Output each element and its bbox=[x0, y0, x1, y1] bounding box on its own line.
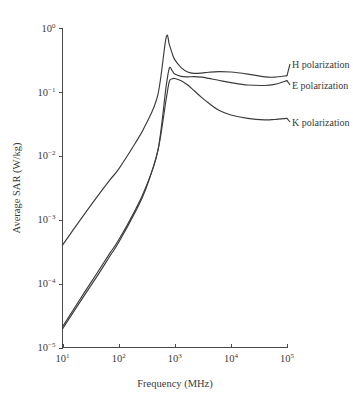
x-axis-tick-labels: 101102103104105 bbox=[56, 352, 295, 364]
y-axis-title: Average SAR (W/kg) bbox=[11, 142, 23, 233]
y-axis-tick-marks bbox=[59, 29, 63, 349]
x-axis-title: Frequency (MHz) bbox=[137, 378, 213, 390]
sar-vs-frequency-chart: 10010−110−210−310−410−5 101102103104105 … bbox=[0, 0, 353, 405]
x-tick-label: 104 bbox=[224, 352, 239, 364]
series-label-k: K polarization bbox=[292, 117, 349, 128]
x-tick-label: 101 bbox=[56, 352, 71, 364]
x-axis-tick-marks bbox=[64, 344, 288, 348]
y-axis-tick-labels: 10010−110−210−310−410−5 bbox=[38, 22, 56, 354]
y-tick-label: 10−1 bbox=[38, 86, 56, 98]
curve-h-polarization bbox=[63, 35, 288, 245]
x-tick-label: 102 bbox=[112, 352, 127, 364]
y-tick-label: 10−2 bbox=[38, 149, 56, 161]
x-tick-label: 103 bbox=[168, 352, 183, 364]
series-label-h: H polarization bbox=[292, 59, 349, 70]
data-curves bbox=[63, 35, 288, 329]
leader-line bbox=[287, 118, 290, 122]
y-tick-label: 10−4 bbox=[38, 277, 56, 289]
curve-k-polarization bbox=[63, 78, 288, 329]
x-tick-label: 105 bbox=[280, 352, 295, 364]
annotation-leader-lines bbox=[287, 64, 290, 122]
leader-line bbox=[287, 64, 290, 76]
y-tick-label: 10−3 bbox=[38, 213, 56, 225]
y-tick-label: 100 bbox=[42, 22, 57, 34]
series-label-e: E polarization bbox=[292, 80, 348, 91]
y-tick-label: 10−5 bbox=[38, 341, 56, 353]
chart-figure: 10010−110−210−310−410−5 101102103104105 … bbox=[0, 0, 353, 405]
series-annotation-labels: H polarizationE polarizationK polarizati… bbox=[292, 59, 349, 128]
leader-line bbox=[287, 81, 290, 85]
